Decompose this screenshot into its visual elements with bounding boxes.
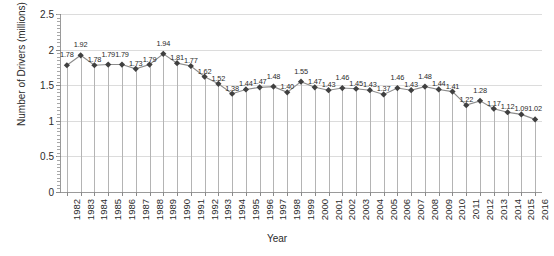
data-point-label: 1.09 bbox=[515, 104, 529, 113]
x-axis-title: Year bbox=[0, 233, 554, 244]
y-axis-tick-label: 0.5 bbox=[40, 151, 54, 162]
data-point-label: 1.02 bbox=[528, 104, 542, 113]
y-tick-minor bbox=[57, 117, 60, 118]
x-axis-tick-label: 2014 bbox=[512, 199, 523, 220]
y-axis-title: Number of Drivers (millions) bbox=[14, 0, 30, 159]
y-tick-minor bbox=[57, 160, 60, 161]
x-tick bbox=[342, 192, 343, 196]
x-tick bbox=[150, 192, 151, 196]
x-tick bbox=[301, 192, 302, 196]
dropline bbox=[521, 114, 522, 192]
y-tick-minor bbox=[57, 188, 60, 189]
y-tick-minor bbox=[57, 103, 60, 104]
x-tick bbox=[218, 192, 219, 196]
x-tick bbox=[163, 192, 164, 196]
gridline bbox=[60, 50, 542, 51]
dropline bbox=[94, 65, 95, 192]
dropline bbox=[150, 65, 151, 192]
x-axis-tick-label: 1997 bbox=[277, 199, 288, 220]
x-axis-tick-label: 2005 bbox=[388, 199, 399, 220]
x-tick bbox=[136, 192, 137, 196]
x-tick bbox=[452, 192, 453, 196]
data-point-label: 1.77 bbox=[184, 56, 198, 65]
dropline bbox=[287, 92, 288, 192]
dropline bbox=[273, 87, 274, 192]
x-axis-tick-label: 1996 bbox=[264, 199, 275, 220]
y-tick-minor bbox=[57, 139, 60, 140]
y-tick-minor bbox=[57, 18, 60, 19]
data-point-label: 1.41 bbox=[446, 82, 460, 91]
dropline bbox=[81, 55, 82, 192]
data-point-label: 1.79 bbox=[143, 55, 157, 64]
dropline bbox=[494, 109, 495, 192]
dropline bbox=[342, 88, 343, 192]
x-axis-tick-label: 2001 bbox=[333, 199, 344, 220]
y-tick-minor bbox=[57, 96, 60, 97]
data-point-label: 1.44 bbox=[432, 79, 446, 88]
x-axis-tick-label: 2004 bbox=[374, 199, 385, 220]
x-tick bbox=[177, 192, 178, 196]
x-axis-tick-label: 2002 bbox=[346, 199, 357, 220]
x-tick bbox=[494, 192, 495, 196]
dropline bbox=[246, 89, 247, 192]
y-tick-minor bbox=[57, 124, 60, 125]
dropline bbox=[205, 77, 206, 192]
data-point-label: 1.79 bbox=[101, 50, 115, 59]
data-point-label: 1.17 bbox=[487, 99, 501, 108]
dropline bbox=[260, 87, 261, 192]
data-point-label: 1.48 bbox=[267, 72, 281, 81]
x-axis-tick-label: 2003 bbox=[360, 199, 371, 220]
data-point-label: 1.12 bbox=[501, 102, 515, 111]
dropline bbox=[370, 90, 371, 192]
data-point-label: 1.37 bbox=[377, 84, 391, 93]
x-axis-tick-label: 2000 bbox=[319, 199, 330, 220]
dropline bbox=[163, 54, 164, 192]
data-point-label: 1.78 bbox=[88, 55, 102, 64]
y-tick-minor bbox=[57, 67, 60, 68]
y-tick-minor bbox=[57, 25, 60, 26]
x-axis-tick-label: 2013 bbox=[498, 199, 509, 220]
chart-container: Number of Drivers (millions) Year 00.511… bbox=[0, 0, 554, 256]
x-tick bbox=[356, 192, 357, 196]
data-point-label: 1.62 bbox=[198, 67, 212, 76]
x-axis-tick-label: 1986 bbox=[126, 199, 137, 220]
x-tick bbox=[439, 192, 440, 196]
y-tick-minor bbox=[57, 114, 60, 115]
x-axis-tick-label: 1994 bbox=[236, 199, 247, 220]
x-axis-tick-label: 2009 bbox=[443, 199, 454, 220]
y-tick bbox=[56, 192, 61, 193]
gridline bbox=[60, 14, 542, 15]
y-tick-minor bbox=[57, 146, 60, 147]
dropline bbox=[508, 112, 509, 192]
y-tick-minor bbox=[57, 39, 60, 40]
x-axis-tick-label: 1992 bbox=[209, 199, 220, 220]
x-tick bbox=[81, 192, 82, 196]
dropline bbox=[397, 88, 398, 192]
y-tick-minor bbox=[57, 167, 60, 168]
y-tick bbox=[56, 85, 61, 86]
dropline bbox=[67, 65, 68, 192]
x-axis-tick-label: 2006 bbox=[401, 199, 412, 220]
dropline bbox=[136, 69, 137, 192]
dropline bbox=[425, 87, 426, 192]
y-tick-minor bbox=[57, 71, 60, 72]
data-point-label: 1.22 bbox=[459, 95, 473, 104]
x-tick bbox=[205, 192, 206, 196]
y-tick-minor bbox=[57, 99, 60, 100]
y-axis-tick-label: 1.5 bbox=[40, 80, 54, 91]
dropline bbox=[535, 119, 536, 192]
x-tick bbox=[397, 192, 398, 196]
y-tick-minor bbox=[57, 42, 60, 43]
x-axis-tick-label: 1982 bbox=[71, 199, 82, 220]
x-tick bbox=[508, 192, 509, 196]
data-point-label: 1.45 bbox=[349, 79, 363, 88]
y-tick-minor bbox=[57, 131, 60, 132]
x-axis-tick-label: 1989 bbox=[167, 199, 178, 220]
x-tick bbox=[535, 192, 536, 196]
dropline bbox=[218, 84, 219, 192]
y-tick-minor bbox=[57, 185, 60, 186]
y-tick-minor bbox=[57, 142, 60, 143]
y-tick-minor bbox=[57, 171, 60, 172]
dropline bbox=[232, 94, 233, 192]
data-point-label: 1.79 bbox=[115, 50, 129, 59]
